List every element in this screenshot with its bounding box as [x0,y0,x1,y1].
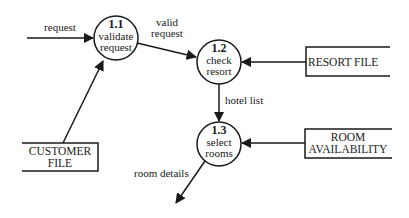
flow-label-request: request [44,21,76,33]
process-1-1[interactable]: 1.1 validate request [94,16,138,60]
process-label-line2: resort [206,65,231,77]
flow-valid-request: valid request [137,16,196,57]
flow-room-details: room details [134,161,205,203]
flow-request: request [27,21,93,38]
process-1-2[interactable]: 1.2 check resort [197,40,241,84]
process-number: 1.3 [212,123,227,137]
process-number: 1.2 [212,41,227,55]
store-customer-file[interactable]: CUSTOMER FILE [22,143,98,171]
flow-label-request2: request [151,27,183,39]
store-label-line1: ROOM [331,131,366,143]
store-label-line1: CUSTOMER [29,145,92,157]
flow-hotel-list: hotel list [219,84,263,121]
flow-customer-to-1-1 [63,61,103,143]
data-flow-diagram: request 1.1 validate request valid reque… [0,0,409,218]
process-1-3[interactable]: 1.3 select rooms [197,122,241,166]
process-label-line2: rooms [205,147,233,159]
store-room-availability[interactable]: ROOM AVAILABILITY [305,129,392,158]
store-label-line2: FILE [48,157,72,169]
store-resort-file[interactable]: RESORT FILE [306,47,390,76]
process-number: 1.1 [109,17,124,31]
process-label-line2: request [100,41,132,53]
flow-label-hotel-list: hotel list [225,94,263,106]
store-label-line2: AVAILABILITY [309,143,388,155]
store-label: RESORT FILE [308,56,378,68]
flow-label-room-details: room details [134,167,189,179]
